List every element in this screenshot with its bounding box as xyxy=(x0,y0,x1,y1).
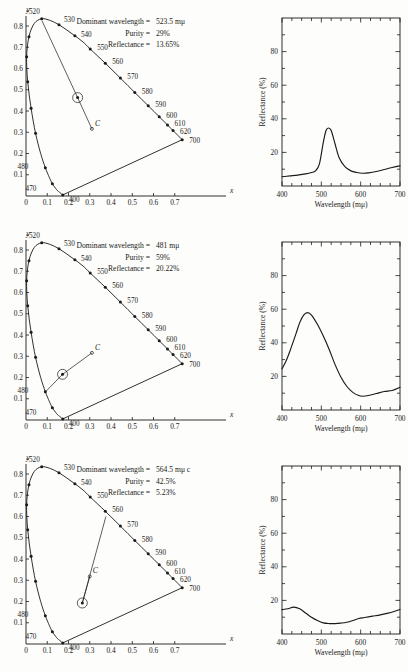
svg-text:570: 570 xyxy=(127,297,138,305)
svg-text:700: 700 xyxy=(394,414,405,423)
svg-text:0.5: 0.5 xyxy=(128,422,138,431)
svg-text:0.6: 0.6 xyxy=(149,422,159,431)
svg-text:20: 20 xyxy=(271,372,279,381)
svg-text:600: 600 xyxy=(355,414,366,423)
svg-text:590: 590 xyxy=(155,549,166,557)
svg-text:Wavelength (mμ): Wavelength (mμ) xyxy=(314,200,367,209)
svg-text:0.3: 0.3 xyxy=(14,576,24,585)
svg-text:530: 530 xyxy=(64,464,75,472)
svg-text:400: 400 xyxy=(276,190,287,199)
chromaticity-diagram-panel-blue: yx00.10.20.30.40.50.60.70.10.20.30.40.50… xyxy=(0,224,245,448)
svg-text:20: 20 xyxy=(271,596,279,605)
svg-text:600: 600 xyxy=(166,560,177,568)
svg-text:60: 60 xyxy=(271,529,279,538)
svg-text:0.8: 0.8 xyxy=(14,246,24,255)
svg-text:0: 0 xyxy=(24,422,28,431)
svg-text:540: 540 xyxy=(81,255,92,263)
svg-text:620: 620 xyxy=(180,128,191,136)
svg-text:0.3: 0.3 xyxy=(85,422,95,431)
svg-text:590: 590 xyxy=(155,101,166,109)
svg-text:480: 480 xyxy=(18,611,29,619)
svg-text:0.6: 0.6 xyxy=(14,288,24,297)
svg-text:C: C xyxy=(95,119,101,128)
figure-panel-panel-green: yx00.10.20.30.40.50.60.70.10.20.30.40.50… xyxy=(0,0,408,224)
svg-text:0.2: 0.2 xyxy=(14,597,24,606)
svg-text:470: 470 xyxy=(26,185,37,193)
svg-text:x: x xyxy=(229,410,234,419)
svg-text:0.5: 0.5 xyxy=(128,646,138,655)
svg-text:Purity =: Purity = xyxy=(125,29,150,38)
svg-text:600: 600 xyxy=(355,190,366,199)
svg-text:0.1: 0.1 xyxy=(43,646,53,655)
svg-text:5.23%: 5.23% xyxy=(156,488,176,497)
svg-text:Purity =: Purity = xyxy=(125,477,150,486)
svg-text:Reflectance =: Reflectance = xyxy=(108,264,150,273)
svg-text:530: 530 xyxy=(64,240,75,248)
svg-text:0.3: 0.3 xyxy=(14,352,24,361)
svg-text:0.8: 0.8 xyxy=(14,22,24,31)
chromaticity-diagram-panel-yellow: yx00.10.20.30.40.50.60.70.10.20.30.40.50… xyxy=(0,448,245,672)
svg-text:Dominant wavelength =: Dominant wavelength = xyxy=(77,241,150,250)
svg-text:400: 400 xyxy=(69,196,80,204)
svg-text:0.4: 0.4 xyxy=(14,555,24,564)
svg-text:570: 570 xyxy=(127,521,138,529)
svg-text:0.6: 0.6 xyxy=(14,512,24,521)
svg-text:0.1: 0.1 xyxy=(14,394,24,403)
svg-text:80: 80 xyxy=(271,495,279,504)
svg-text:13.65%: 13.65% xyxy=(156,40,180,49)
svg-text:0.4: 0.4 xyxy=(14,331,24,340)
svg-text:20: 20 xyxy=(271,148,279,157)
svg-text:0.6: 0.6 xyxy=(14,64,24,73)
svg-text:570: 570 xyxy=(127,73,138,81)
reflectance-chart-panel-green: 40050060070020406080Wavelength (mμ)Refle… xyxy=(248,0,408,224)
chromaticity-diagram-panel-green: yx00.10.20.30.40.50.60.70.10.20.30.40.50… xyxy=(0,0,245,224)
svg-text:Reflectance (%): Reflectance (%) xyxy=(258,77,267,127)
svg-text:600: 600 xyxy=(166,112,177,120)
svg-text:530: 530 xyxy=(64,16,75,24)
svg-text:60: 60 xyxy=(271,305,279,314)
svg-text:Dominant wavelength =: Dominant wavelength = xyxy=(77,17,150,26)
svg-text:580: 580 xyxy=(142,88,153,96)
svg-text:0: 0 xyxy=(24,646,28,655)
reflectance-chart-panel-yellow: 40050060070020406080Wavelength (mμ)Refle… xyxy=(248,448,408,672)
svg-text:480: 480 xyxy=(18,163,29,171)
svg-text:Reflectance (%): Reflectance (%) xyxy=(258,525,267,575)
svg-text:0.1: 0.1 xyxy=(43,422,53,431)
svg-text:C: C xyxy=(93,566,99,575)
svg-text:600: 600 xyxy=(355,638,366,647)
figure-panel-panel-yellow: yx00.10.20.30.40.50.60.70.10.20.30.40.50… xyxy=(0,448,408,672)
svg-text:620: 620 xyxy=(180,352,191,360)
svg-text:580: 580 xyxy=(142,312,153,320)
svg-text:29%: 29% xyxy=(156,29,171,38)
svg-text:0.5: 0.5 xyxy=(14,533,24,542)
svg-text:400: 400 xyxy=(69,644,80,652)
svg-text:540: 540 xyxy=(81,479,92,487)
svg-text:0.7: 0.7 xyxy=(170,646,180,655)
svg-text:540: 540 xyxy=(81,31,92,39)
svg-text:20.22%: 20.22% xyxy=(156,264,180,273)
svg-text:520: 520 xyxy=(29,456,40,464)
svg-text:700: 700 xyxy=(189,361,200,369)
svg-text:59%: 59% xyxy=(156,253,171,262)
svg-text:400: 400 xyxy=(276,414,287,423)
svg-text:0.7: 0.7 xyxy=(14,491,24,500)
svg-text:Reflectance =: Reflectance = xyxy=(108,488,150,497)
svg-text:550: 550 xyxy=(97,492,108,500)
svg-text:40: 40 xyxy=(271,338,279,347)
svg-text:0.1: 0.1 xyxy=(14,170,24,179)
svg-text:500: 500 xyxy=(316,638,327,647)
svg-text:520: 520 xyxy=(29,8,40,16)
svg-text:0.5: 0.5 xyxy=(14,85,24,94)
svg-text:0.6: 0.6 xyxy=(149,646,159,655)
svg-text:Wavelength (mμ): Wavelength (mμ) xyxy=(314,424,367,433)
svg-text:700: 700 xyxy=(394,190,405,199)
svg-text:40: 40 xyxy=(271,562,279,571)
svg-text:0.5: 0.5 xyxy=(14,309,24,318)
svg-text:0.4: 0.4 xyxy=(14,107,24,116)
svg-text:0.7: 0.7 xyxy=(170,422,180,431)
svg-text:550: 550 xyxy=(97,44,108,52)
svg-text:0.5: 0.5 xyxy=(128,198,138,207)
svg-text:0.4: 0.4 xyxy=(106,422,116,431)
svg-text:80: 80 xyxy=(271,271,279,280)
svg-text:620: 620 xyxy=(180,576,191,584)
